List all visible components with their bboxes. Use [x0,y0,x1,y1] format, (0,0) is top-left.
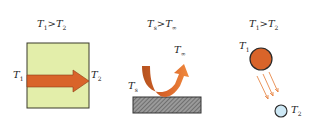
radiation-panel [250,48,287,117]
cold-body [275,105,287,117]
cold-body-label: T2 [291,104,302,117]
right-temperature-label: T2 [91,69,102,82]
radiation-condition: T1>T2 [249,18,278,31]
hot-body [250,48,272,70]
fluid-temperature-label: T∞ [174,44,186,57]
conduction-panel [27,43,89,108]
conduction-condition: T1>T2 [37,18,66,31]
radiation-rays-icon [257,72,278,99]
convection-arrow-icon [142,64,189,97]
surface-temperature-label: Ts [128,80,138,93]
hot-body-label: T1 [239,40,250,53]
convection-panel [133,64,201,113]
left-temperature-label: T1 [13,69,24,82]
convection-condition: Ts>T∞ [147,18,177,31]
hot-surface [133,97,201,113]
